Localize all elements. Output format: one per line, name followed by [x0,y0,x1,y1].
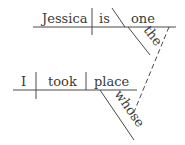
diagram-svg: Jessica is one the I took place whose [0,0,185,145]
word-took: took [48,74,77,89]
word-jessica: Jessica [40,11,88,26]
word-whose: whose [112,87,148,130]
word-is: is [99,11,110,26]
word-i: I [21,74,26,89]
predicate-nominative-divider [112,8,125,27]
sentence-diagram: Jessica is one the I took place whose [0,0,185,145]
